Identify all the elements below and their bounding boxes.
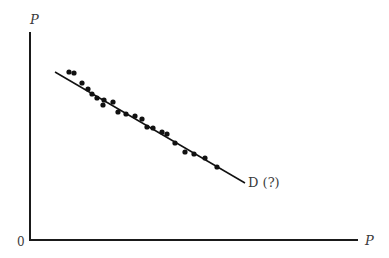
data-point bbox=[139, 116, 144, 121]
data-point bbox=[182, 149, 187, 154]
data-point bbox=[123, 111, 128, 116]
data-point bbox=[150, 125, 155, 130]
data-point bbox=[144, 124, 149, 129]
chart: P P 0 D (?) bbox=[0, 0, 389, 258]
data-point bbox=[159, 129, 164, 134]
data-point bbox=[202, 155, 207, 160]
axes bbox=[29, 32, 358, 241]
origin-label: 0 bbox=[17, 235, 25, 249]
data-point bbox=[115, 109, 120, 114]
data-point bbox=[100, 102, 105, 107]
data-point bbox=[66, 69, 71, 74]
data-point bbox=[172, 140, 177, 145]
data-point bbox=[132, 113, 137, 118]
data-point bbox=[214, 164, 219, 169]
data-point bbox=[191, 151, 196, 156]
x-axis-label: P bbox=[364, 233, 374, 248]
data-point bbox=[89, 91, 94, 96]
data-point bbox=[79, 80, 84, 85]
data-point bbox=[94, 95, 99, 100]
data-point bbox=[110, 99, 115, 104]
data-point bbox=[101, 97, 106, 102]
y-axis-label: P bbox=[29, 12, 39, 27]
data-point bbox=[71, 70, 76, 75]
data-point bbox=[164, 131, 169, 136]
curve-label: D (?) bbox=[248, 175, 280, 190]
data-point bbox=[85, 86, 90, 91]
